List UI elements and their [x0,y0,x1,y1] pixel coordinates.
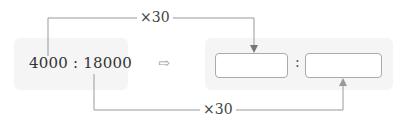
given-ratio: 4000 : 18000 [29,54,132,72]
first-term-blank[interactable] [215,53,288,78]
bottom-multiplier-label: ×30 [200,101,236,117]
second-term-blank[interactable] [305,53,382,78]
arrow-down-icon [250,45,258,53]
top-multiplier-label: ×30 [137,9,173,25]
arrow-up-icon [339,78,347,86]
ratio-colon: : [295,54,300,70]
right-arrow-icon: ⇨ [158,55,170,71]
